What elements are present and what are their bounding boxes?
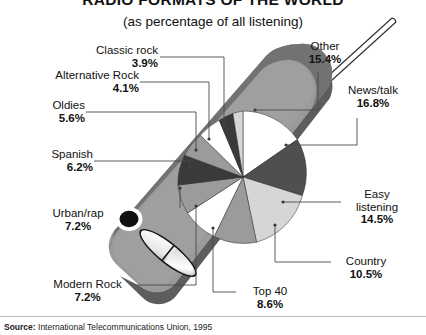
callout-news-talk-pct: 16.8% [334, 97, 412, 110]
callout-classic-rock-name: Classic rock [96, 44, 158, 57]
callout-classic-rock: Classic rock 3.9% [96, 44, 158, 69]
callout-alternative-rock: Alternative Rock 4.1% [55, 69, 139, 94]
callout-oldies-pct: 5.6% [52, 112, 85, 125]
callout-easy-listening-pct: 14.5% [343, 213, 411, 226]
source-label: Source: [4, 322, 36, 332]
callout-news-talk-name: News/talk [334, 84, 412, 97]
callout-other: Other 15.4% [296, 40, 354, 65]
callout-alternative-rock-name: Alternative Rock [55, 69, 139, 82]
source-note: Source: International Telecommunications… [4, 322, 212, 332]
callout-oldies: Oldies 5.6% [52, 99, 85, 124]
callout-country-pct: 10.5% [333, 268, 399, 281]
callout-easy-listening-name: Easy [343, 188, 411, 201]
callout-top-40: Top 40 8.6% [241, 285, 299, 310]
callout-spanish-name: Spanish [51, 148, 93, 161]
callout-other-pct: 15.4% [296, 53, 354, 66]
callout-easy-listening: Easy listening 14.5% [343, 188, 411, 226]
callout-easy-listening-name2: listening [343, 201, 411, 214]
callout-urban-rap: Urban/rap 7.2% [27, 207, 129, 232]
callout-news-talk: News/talk 16.8% [334, 84, 412, 109]
callout-modern-rock-name: Modern Rock [37, 278, 138, 291]
callout-urban-rap-pct: 7.2% [27, 220, 129, 233]
callout-top-40-name: Top 40 [241, 285, 299, 298]
callout-alternative-rock-pct: 4.1% [55, 82, 139, 95]
callout-other-name: Other [296, 40, 354, 53]
callout-country-name: Country [333, 255, 399, 268]
callout-spanish-pct: 6.2% [51, 161, 93, 174]
callout-top-40-pct: 8.6% [241, 298, 299, 311]
callout-modern-rock-pct: 7.2% [37, 291, 138, 304]
callout-country: Country 10.5% [333, 255, 399, 280]
callout-classic-rock-pct: 3.9% [96, 57, 158, 70]
source-text: International Telecommunications Union, … [38, 322, 212, 332]
callout-oldies-name: Oldies [52, 99, 85, 112]
callout-spanish: Spanish 6.2% [51, 148, 93, 173]
pie-chart [178, 111, 306, 243]
infographic-canvas: RADIO FORMATS OF THE WORLD (as percentag… [0, 0, 426, 335]
callout-urban-rap-name: Urban/rap [27, 207, 129, 220]
callout-modern-rock: Modern Rock 7.2% [37, 278, 138, 303]
